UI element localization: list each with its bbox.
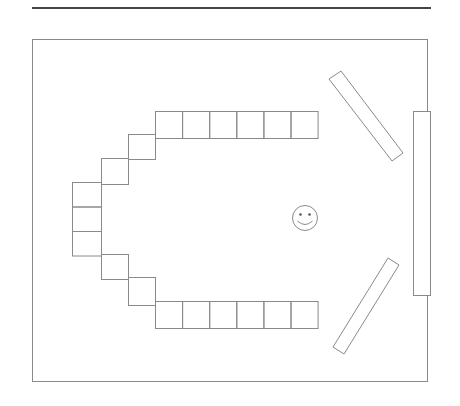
desk-left-column-2 (73, 207, 102, 232)
desk-top-row-1 (156, 112, 183, 139)
desk-bottom-row-4 (237, 302, 264, 329)
desk-top-row-6 (291, 112, 318, 139)
smiley-face-icon (293, 206, 318, 231)
desk-left-column-1 (73, 183, 102, 208)
desk-lower-diagonal-2 (129, 278, 156, 306)
desk-top-row-4 (237, 112, 264, 139)
desk-top-row-2 (183, 112, 210, 139)
upper-slanted-board (329, 71, 403, 161)
desk-bottom-row-2 (183, 302, 210, 329)
desk-bottom-row-6 (291, 302, 318, 329)
desk-top-row-5 (264, 112, 291, 139)
desk-upper-diagonal-2 (102, 159, 129, 185)
desk-lower-diagonal-1 (102, 255, 129, 280)
desk-bottom-row-3 (210, 302, 237, 329)
room-outline (33, 40, 428, 382)
desk-bottom-row-1 (156, 302, 183, 329)
front-board (414, 112, 431, 296)
desk-bottom-row-5 (264, 302, 291, 329)
lower-slanted-board (333, 258, 399, 354)
desk-upper-diagonal-1 (129, 135, 156, 160)
seating-diagram (0, 0, 460, 406)
desks (73, 112, 319, 329)
desk-top-row-3 (210, 112, 237, 139)
desk-left-column-3 (73, 232, 102, 257)
